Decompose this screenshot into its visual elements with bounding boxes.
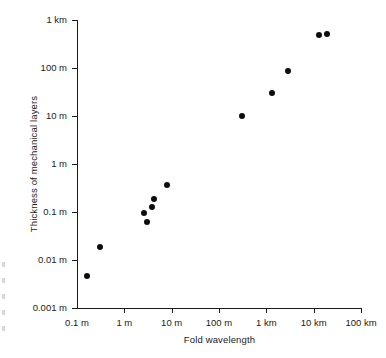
data-point bbox=[164, 182, 170, 188]
y-tick-3: 1 m bbox=[72, 164, 77, 165]
x-tick-label-3: 100 m bbox=[206, 316, 232, 329]
y-tick-label-5: 0.01 m bbox=[38, 253, 67, 266]
x-tick-label-5: 10 km bbox=[301, 316, 327, 329]
x-tick-label-2: 10 m bbox=[161, 316, 182, 329]
x-tick-6 bbox=[361, 308, 362, 313]
x-axis-title: Fold wavelength bbox=[77, 334, 362, 345]
y-axis-title: Thickness of mechanical layers bbox=[28, 20, 39, 308]
plot-area: 1 km100 m10 m1 m0.1 m0.01 m0.001 m 0.1 m… bbox=[77, 20, 361, 308]
data-point bbox=[239, 113, 245, 119]
data-point bbox=[141, 210, 147, 216]
y-tick-label-4: 0.1 m bbox=[43, 205, 67, 218]
data-point bbox=[269, 90, 275, 96]
x-tick-2 bbox=[172, 308, 173, 313]
x-tick-5 bbox=[314, 308, 315, 313]
page-edge-speckle bbox=[2, 294, 5, 299]
page-edge-speckle bbox=[2, 326, 5, 331]
x-tick-label-6: 100 km bbox=[345, 316, 376, 329]
y-tick-label-2: 10 m bbox=[46, 109, 67, 122]
x-tick-label-0: 0.1 m bbox=[65, 316, 89, 329]
y-tick-1: 100 m bbox=[72, 68, 77, 69]
x-tick-label-4: 1 km bbox=[256, 316, 277, 329]
data-point bbox=[324, 31, 330, 37]
x-tick-label-1: 1 m bbox=[116, 316, 132, 329]
data-point bbox=[144, 219, 150, 225]
y-tick-5: 0.01 m bbox=[72, 260, 77, 261]
x-tick-1 bbox=[124, 308, 125, 313]
x-tick-4 bbox=[266, 308, 267, 313]
y-tick-6: 0.001 m bbox=[72, 308, 77, 309]
page-edge-speckle bbox=[2, 262, 5, 267]
y-tick-0: 1 km bbox=[72, 20, 77, 21]
x-tick-3 bbox=[219, 308, 220, 313]
y-tick-4: 0.1 m bbox=[72, 212, 77, 213]
y-tick-label-1: 100 m bbox=[41, 61, 67, 74]
y-tick-label-3: 1 m bbox=[51, 157, 67, 170]
scatter-chart-figure: 1 km100 m10 m1 m0.1 m0.01 m0.001 m 0.1 m… bbox=[0, 0, 386, 358]
data-point bbox=[316, 32, 322, 38]
y-tick-label-0: 1 km bbox=[46, 13, 67, 26]
data-point bbox=[149, 204, 155, 210]
data-point bbox=[285, 68, 291, 74]
data-point bbox=[97, 244, 103, 250]
y-tick-2: 10 m bbox=[72, 116, 77, 117]
data-point bbox=[151, 196, 157, 202]
page-edge-speckle bbox=[2, 278, 5, 283]
data-point bbox=[84, 273, 90, 279]
page-edge-speckle bbox=[2, 310, 5, 315]
